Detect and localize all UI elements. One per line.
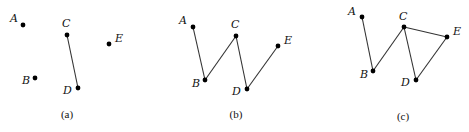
vertex-e bbox=[107, 42, 112, 47]
panel-caption: (a) bbox=[61, 108, 74, 121]
vertex-e bbox=[445, 35, 450, 40]
vertex-b bbox=[371, 69, 376, 74]
edge-d-e bbox=[416, 37, 447, 80]
edge-c-d bbox=[236, 36, 247, 89]
vertex-label-d: D bbox=[231, 85, 241, 98]
panel-caption: (c) bbox=[397, 110, 410, 123]
vertex-c bbox=[402, 25, 407, 30]
panel-b: ABCDE(b) bbox=[178, 14, 292, 121]
vertex-d bbox=[245, 87, 250, 92]
vertex-label-c: C bbox=[231, 18, 240, 31]
vertex-label-b: B bbox=[359, 68, 368, 81]
vertex-label-e: E bbox=[114, 32, 123, 45]
vertex-label-e: E bbox=[283, 34, 292, 47]
vertex-label-c: C bbox=[62, 17, 71, 30]
vertex-b bbox=[203, 78, 208, 83]
panel-caption: (b) bbox=[230, 108, 243, 121]
vertex-label-a: A bbox=[178, 14, 187, 27]
vertex-label-b: B bbox=[191, 77, 200, 90]
vertex-b bbox=[33, 76, 38, 81]
panel-c: ABCDE(c) bbox=[347, 5, 461, 123]
vertex-a bbox=[360, 15, 365, 20]
vertex-a bbox=[21, 23, 26, 28]
vertex-e bbox=[276, 44, 281, 49]
edge-c-d bbox=[67, 35, 78, 88]
vertex-label-a: A bbox=[347, 5, 356, 18]
vertex-label-d: D bbox=[400, 76, 410, 89]
edge-a-b bbox=[193, 27, 205, 80]
vertex-a bbox=[191, 25, 196, 30]
edge-b-c bbox=[373, 27, 404, 71]
vertex-d bbox=[76, 86, 81, 91]
vertex-label-b: B bbox=[21, 74, 30, 87]
vertex-label-d: D bbox=[62, 84, 72, 97]
vertex-label-a: A bbox=[9, 12, 18, 25]
edge-d-e bbox=[247, 46, 278, 89]
edge-c-e bbox=[404, 27, 447, 37]
vertex-c bbox=[234, 34, 239, 39]
edge-c-d bbox=[404, 27, 416, 80]
vertex-c bbox=[65, 33, 70, 38]
panel-a: ABCDE(a) bbox=[9, 12, 123, 121]
vertex-label-e: E bbox=[452, 25, 461, 38]
edge-a-b bbox=[362, 17, 373, 71]
vertex-d bbox=[414, 78, 419, 83]
edge-b-c bbox=[205, 36, 236, 80]
vertex-label-c: C bbox=[399, 10, 408, 23]
graph-figure: ABCDE(a) ABCDE(b) ABCDE(c) bbox=[0, 0, 469, 132]
